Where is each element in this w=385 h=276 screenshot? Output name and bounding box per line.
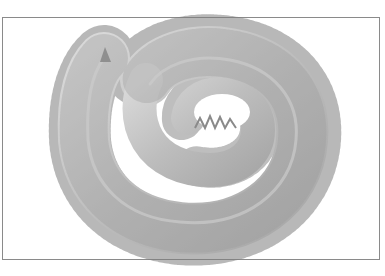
- worm-body: [84, 52, 303, 229]
- worm-illustration: [0, 0, 385, 276]
